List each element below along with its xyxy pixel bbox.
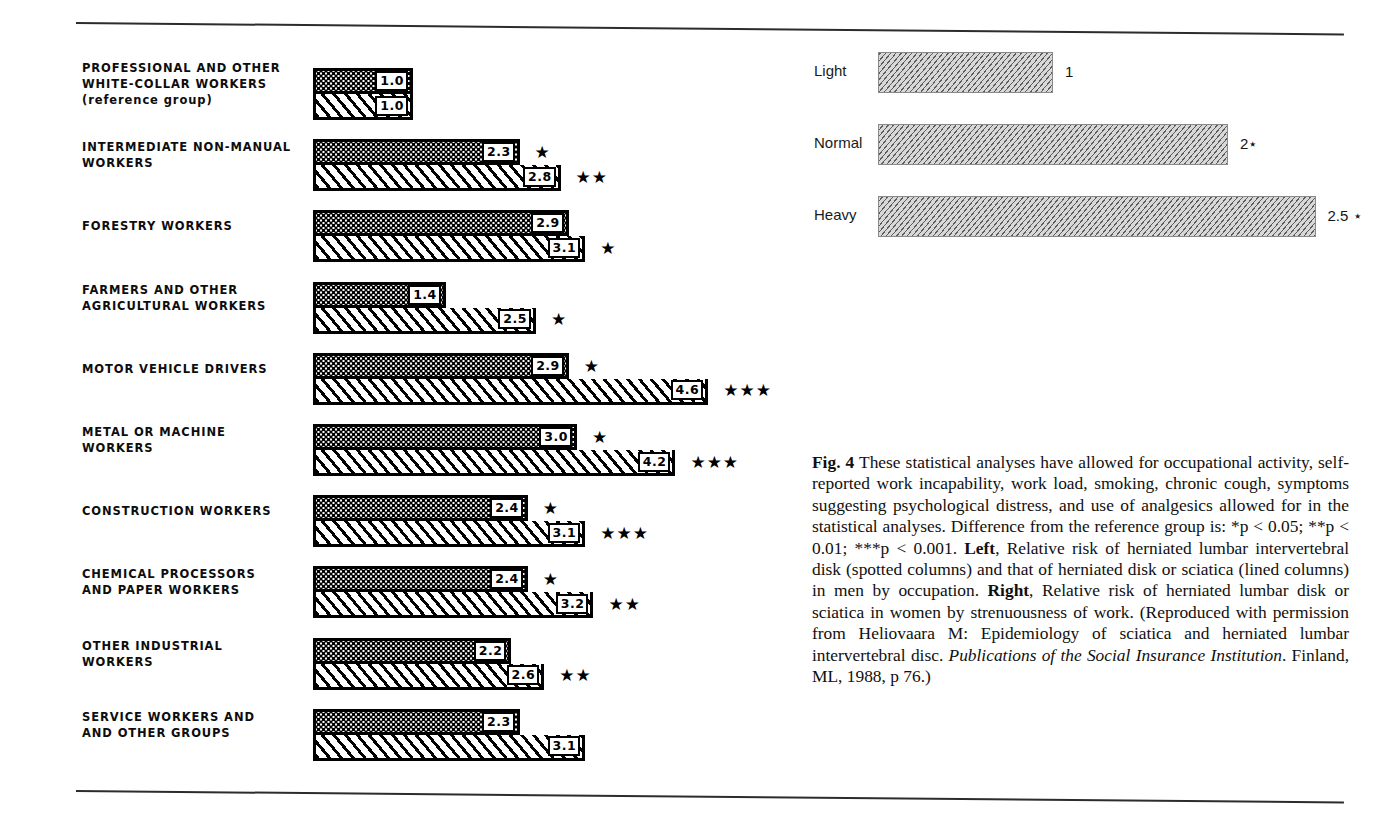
occupation-row: MOTOR VEHICLE DRIVERS2.9★4.6★★★: [0, 345, 760, 411]
occupation-label-line: METAL OR MACHINE: [82, 424, 310, 440]
bar-pair: 2.4★3.1★★★: [313, 495, 585, 547]
occupation-label: METAL OR MACHINEWORKERS: [82, 424, 310, 456]
bar-value-label: 3.1: [548, 523, 581, 543]
spotted-bar: 1.4: [313, 282, 446, 308]
figure-caption: Fig. 4 These statistical analyses have a…: [812, 452, 1349, 687]
occupation-label-line: PROFESSIONAL AND OTHER: [82, 60, 310, 76]
occupation-row: CONSTRUCTION WORKERS2.4★3.1★★★: [0, 487, 760, 553]
occupation-label: OTHER INDUSTRIALWORKERS: [82, 638, 310, 670]
spotted-bar: 2.3: [313, 709, 520, 735]
bar-value-label: 3.2: [556, 594, 589, 614]
bar-value-label: 2.4: [490, 569, 523, 589]
occupation-label-line: SERVICE WORKERS AND: [82, 709, 310, 725]
significance-stars: ★: [600, 239, 616, 256]
occupation-label-line: CONSTRUCTION WORKERS: [82, 503, 310, 519]
strenuousness-row: Heavy2.5 ⋆: [790, 188, 1370, 246]
significance-stars: ★: [543, 500, 559, 517]
bar-value-label: 4.2: [638, 452, 671, 472]
spotted-bar: 2.4★: [313, 566, 528, 592]
bar-value-label: 3.0: [539, 427, 572, 447]
caption-figure-number: Fig. 4: [812, 452, 854, 472]
bar-value-label: 2.9: [531, 356, 564, 376]
significance-stars: ★★★: [690, 453, 739, 470]
lined-bar: 2.5★: [313, 308, 536, 334]
bar-pair: 2.22.6★★: [313, 638, 544, 690]
caption-right-emphasis: Right: [988, 580, 1030, 600]
bar-pair: 2.4★3.2★★: [313, 566, 593, 618]
occupation-label: PROFESSIONAL AND OTHERWHITE-COLLAR WORKE…: [82, 60, 310, 108]
lined-bar: 3.2★★: [313, 592, 593, 618]
spotted-bar: 1.0: [313, 68, 413, 94]
occupation-row: PROFESSIONAL AND OTHERWHITE-COLLAR WORKE…: [0, 60, 760, 126]
bar-pair: 2.93.1★: [313, 210, 585, 262]
spotted-bar: 3.0★: [313, 424, 577, 450]
occupation-row: FORESTRY WORKERS2.93.1★: [0, 202, 760, 268]
strenuousness-value-label: 2.5 ⋆: [1328, 207, 1362, 225]
occupation-label: INTERMEDIATE NON-MANUALWORKERS: [82, 139, 310, 171]
spotted-bar: 2.3★: [313, 139, 520, 165]
significance-stars: ★★★: [723, 382, 772, 399]
occupation-label-line: FORESTRY WORKERS: [82, 218, 310, 234]
bar-pair: 3.0★4.2★★★: [313, 424, 675, 476]
bar-value-label: 1.4: [408, 285, 441, 305]
occupation-label-line: (reference group): [82, 92, 310, 108]
bar-value-label: 2.3: [482, 712, 515, 732]
occupation-label-line: OTHER INDUSTRIAL: [82, 638, 310, 654]
bar-value-label: 2.8: [523, 167, 556, 187]
strenuousness-value-label: 2⋆: [1240, 135, 1257, 153]
bottom-rule: [76, 790, 1344, 804]
occupation-label: MOTOR VEHICLE DRIVERS: [82, 361, 310, 377]
bar-pair: 1.42.5★: [313, 282, 536, 334]
bar-value-label: 1.0: [375, 71, 408, 91]
occupation-row: METAL OR MACHINEWORKERS3.0★4.2★★★: [0, 416, 760, 482]
occupation-label-line: WORKERS: [82, 155, 310, 171]
significance-stars: ★★: [576, 168, 608, 185]
occupation-label-line: AND PAPER WORKERS: [82, 582, 310, 598]
occupation-label-line: FARMERS AND OTHER: [82, 282, 310, 298]
lined-bar: 4.2★★★: [313, 450, 675, 476]
strenuousness-row: Normal2⋆: [790, 116, 1370, 174]
spotted-bar: 2.2: [313, 638, 511, 664]
bar-value-label: 1.0: [375, 96, 408, 116]
occupation-row: FARMERS AND OTHERAGRICULTURAL WORKERS1.4…: [0, 274, 760, 340]
lined-bar: 3.1★: [313, 236, 585, 262]
caption-left-emphasis: Left: [964, 538, 995, 558]
strenuousness-value-label: 1: [1065, 63, 1073, 80]
bar-value-label: 3.1: [548, 736, 581, 756]
significance-stars: ★★★: [600, 524, 649, 541]
occupation-label: FARMERS AND OTHERAGRICULTURAL WORKERS: [82, 282, 310, 314]
bar-pair: 2.33.1: [313, 709, 585, 761]
occupation-row: INTERMEDIATE NON-MANUALWORKERS2.3★2.8★★: [0, 131, 760, 197]
spotted-bar: 2.4★: [313, 495, 528, 521]
occupation-label: FORESTRY WORKERS: [82, 218, 310, 234]
lined-bar: 3.1: [313, 735, 585, 761]
significance-stars: ★: [592, 429, 608, 446]
lined-bar: 4.6★★★: [313, 379, 708, 405]
caption-journal-title: Publications of the Social Insurance Ins…: [949, 645, 1282, 665]
occupation-row: SERVICE WORKERS ANDAND OTHER GROUPS2.33.…: [0, 701, 760, 767]
spotted-bar: 2.9★: [313, 353, 569, 379]
significance-stars: ★★: [559, 667, 591, 684]
occupation-label-line: MOTOR VEHICLE DRIVERS: [82, 361, 310, 377]
significance-stars: ★: [535, 144, 551, 161]
lined-bar: 3.1★★★: [313, 521, 585, 547]
occupation-label-line: AGRICULTURAL WORKERS: [82, 298, 310, 314]
left-bar-chart: PROFESSIONAL AND OTHERWHITE-COLLAR WORKE…: [0, 0, 760, 790]
occupation-label: SERVICE WORKERS ANDAND OTHER GROUPS: [82, 709, 310, 741]
strenuousness-row: Light1: [790, 44, 1370, 102]
occupation-row: CHEMICAL PROCESSORSAND PAPER WORKERS2.4★…: [0, 558, 760, 624]
occupation-label: CONSTRUCTION WORKERS: [82, 503, 310, 519]
bar-value-label: 2.9: [531, 213, 564, 233]
occupation-label-line: WHITE-COLLAR WORKERS: [82, 76, 310, 92]
lined-bar: 1.0: [313, 94, 413, 120]
right-bar-chart: Light1Normal2⋆Heavy2.5 ⋆: [790, 44, 1370, 244]
bar-value-label: 2.4: [490, 498, 523, 518]
significance-stars: ★: [543, 571, 559, 588]
bar-pair: 2.3★2.8★★: [313, 139, 561, 191]
bar-value-label: 4.6: [671, 380, 704, 400]
strenuousness-bar: [878, 196, 1316, 237]
occupation-row: OTHER INDUSTRIALWORKERS2.22.6★★: [0, 630, 760, 696]
significance-stars: ★: [551, 311, 567, 328]
lined-bar: 2.8★★: [313, 165, 561, 191]
lined-bar: 2.6★★: [313, 664, 544, 690]
